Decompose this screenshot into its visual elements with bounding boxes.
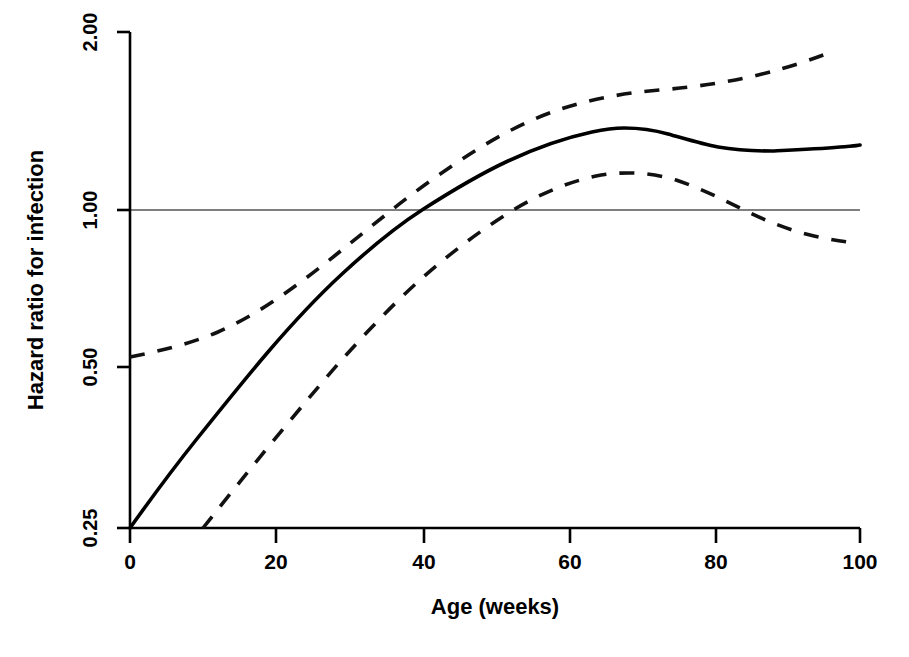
x-tick-label-40: 40	[412, 551, 435, 572]
y-tick-label-0-50: 0.50	[70, 357, 110, 379]
x-tick-label-20: 20	[264, 551, 287, 572]
x-tick-label-80: 80	[704, 551, 727, 572]
y-tick-label-2-00: 2.00	[70, 22, 110, 44]
x-tick-label-0: 0	[124, 551, 136, 572]
y-axis-title: Hazard ratio for infection	[0, 269, 166, 291]
hazard-ratio-figure: 2.00 1.00 0.50 0.25 0 20 40 60 80 100 Ag…	[0, 0, 909, 657]
y-tick-label-0-25: 0.25	[70, 518, 110, 540]
lower-confidence-curve	[203, 173, 858, 528]
y-tick-label-1-00: 1.00	[70, 200, 110, 222]
x-axis-ticks	[130, 528, 860, 543]
upper-confidence-curve	[130, 54, 826, 357]
hazard-ratio-curve	[130, 128, 860, 528]
plot-canvas	[0, 0, 909, 657]
x-tick-label-100: 100	[842, 551, 877, 572]
x-axis-title: Age (weeks)	[431, 596, 559, 618]
x-tick-label-60: 60	[558, 551, 581, 572]
